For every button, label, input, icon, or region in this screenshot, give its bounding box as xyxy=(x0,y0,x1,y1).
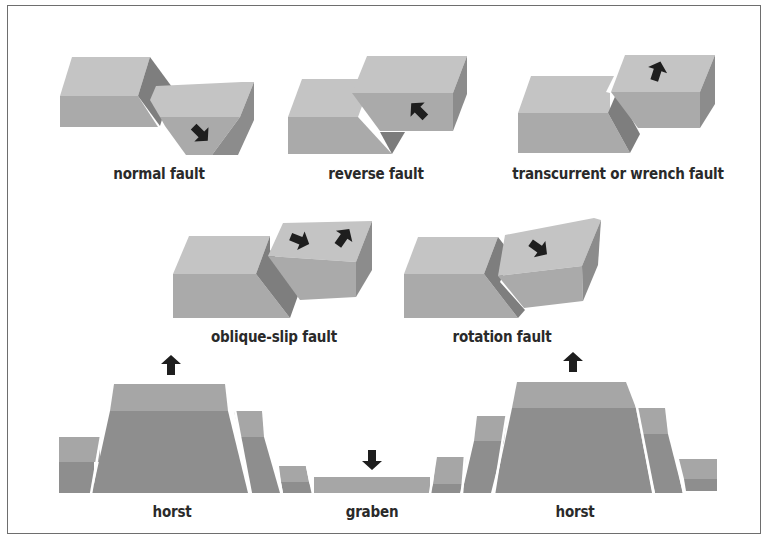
normal-fault-label: normal fault xyxy=(113,165,204,183)
normal-fault-block xyxy=(60,57,254,155)
reverse-fault-block xyxy=(288,56,467,154)
rotation-fault-block xyxy=(404,218,601,318)
arrow-up-icon xyxy=(161,355,181,375)
horst-graben-cross-section xyxy=(59,352,717,494)
arrow-up-icon xyxy=(563,352,583,372)
oblique-slip-fault-block xyxy=(173,221,372,318)
horst-left-label: horst xyxy=(152,503,191,521)
oblique-slip-fault-label: oblique-slip fault xyxy=(211,328,337,346)
horst-right-label: horst xyxy=(555,503,594,521)
transcurrent-fault-block xyxy=(518,55,715,153)
reverse-fault-label: reverse fault xyxy=(328,165,423,183)
rotation-fault-label: rotation fault xyxy=(453,328,552,346)
graben-label: graben xyxy=(346,503,399,521)
fault-types-diagram xyxy=(0,0,769,546)
transcurrent-fault-label: transcurrent or wrench fault xyxy=(512,165,724,183)
arrow-down-icon xyxy=(362,450,382,470)
